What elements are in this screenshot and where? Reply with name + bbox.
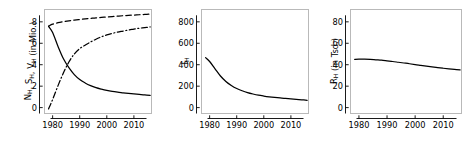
- panel-2-curve-ih: [206, 58, 308, 101]
- panel-2-x-ticklabels: 1980199020002010: [199, 120, 301, 130]
- panel-1-x-axis: 1980199020002010: [42, 115, 146, 130]
- panel-2-x-ticklabel: 1980: [199, 120, 220, 130]
- panel-3-x-ticklabel: 1990: [377, 120, 398, 130]
- panel-2-y-ticklabel: 200: [178, 81, 194, 91]
- panel-1-curve-sh: [49, 14, 151, 26]
- panel-2-y-ticklabel: 0: [189, 103, 194, 113]
- figure-panel-grid: 02468 1980199020002010 NH, SH, VH (in Mi…: [0, 0, 471, 150]
- panel-3-x-ticklabel: 2000: [405, 120, 426, 130]
- chart-panel-2: 0200400600800 1980199020002010 IH: [157, 0, 314, 150]
- panel-1-x-tickmarks: [53, 115, 134, 118]
- chart-panel-1-svg: 02468 1980199020002010 NH, SH, VH (in Mi…: [0, 0, 157, 150]
- panel-3-x-axis: 1980199020002010: [349, 115, 457, 130]
- panel-1-x-ticklabel: 1980: [42, 120, 63, 130]
- panel-3-curves: [355, 59, 460, 70]
- panel-1-plot-frame: [45, 10, 152, 114]
- panel-2-curves: [206, 58, 308, 101]
- panel-2-plot-frame: [202, 10, 309, 114]
- panel-1-curve-nh: [49, 26, 151, 95]
- panel-3-y-axis-title-text: RH (in Tsd.): [329, 38, 341, 84]
- chart-panel-3-svg: 020406080 1980199020002010 RH (in Tsd.): [314, 0, 471, 150]
- chart-panel-3: 020406080 1980199020002010 RH (in Tsd.): [314, 0, 471, 150]
- panel-1-x-ticklabel: 2010: [123, 120, 144, 130]
- panel-2-x-ticklabel: 1990: [226, 120, 247, 130]
- panel-1-x-ticklabel: 1990: [69, 120, 90, 130]
- panel-1-y-ticklabel: 0: [32, 103, 37, 113]
- panel-3-x-tickmarks: [359, 115, 443, 118]
- panel-1-y-tickmarks: [40, 22, 43, 108]
- panel-3-x-ticklabels: 1980199020002010: [349, 120, 454, 130]
- panel-3-x-ticklabel: 2010: [433, 120, 454, 130]
- panel-3-y-ticklabel: 0: [338, 103, 343, 113]
- panel-3-plot-frame: [351, 10, 462, 114]
- panel-3-y-ticklabel: 80: [333, 17, 343, 27]
- panel-3-y-tickmarks: [346, 22, 349, 108]
- panel-1-x-ticklabel: 2000: [96, 120, 117, 130]
- panel-3-curve-rh: [355, 59, 460, 70]
- panel-3-x-ticklabel: 1980: [349, 120, 370, 130]
- chart-panel-2-svg: 0200400600800 1980199020002010 IH: [157, 0, 314, 150]
- panel-2-x-ticklabel: 2000: [253, 120, 274, 130]
- panel-1-curve-vh: [49, 27, 151, 109]
- panel-3-y-axis-title: RH (in Tsd.): [329, 38, 341, 84]
- panel-2-x-ticklabel: 2010: [280, 120, 301, 130]
- chart-panel-1: 02468 1980199020002010 NH, SH, VH (in Mi…: [0, 0, 157, 150]
- panel-2-x-axis: 1980199020002010: [199, 115, 303, 130]
- panel-2-y-ticklabel: 600: [178, 38, 194, 48]
- panel-1-curves: [49, 14, 151, 109]
- panel-2-x-tickmarks: [210, 115, 291, 118]
- panel-2-y-tickmarks: [197, 22, 200, 108]
- panel-1-x-ticklabels: 1980199020002010: [42, 120, 144, 130]
- panel-2-y-ticklabel: 800: [178, 17, 194, 27]
